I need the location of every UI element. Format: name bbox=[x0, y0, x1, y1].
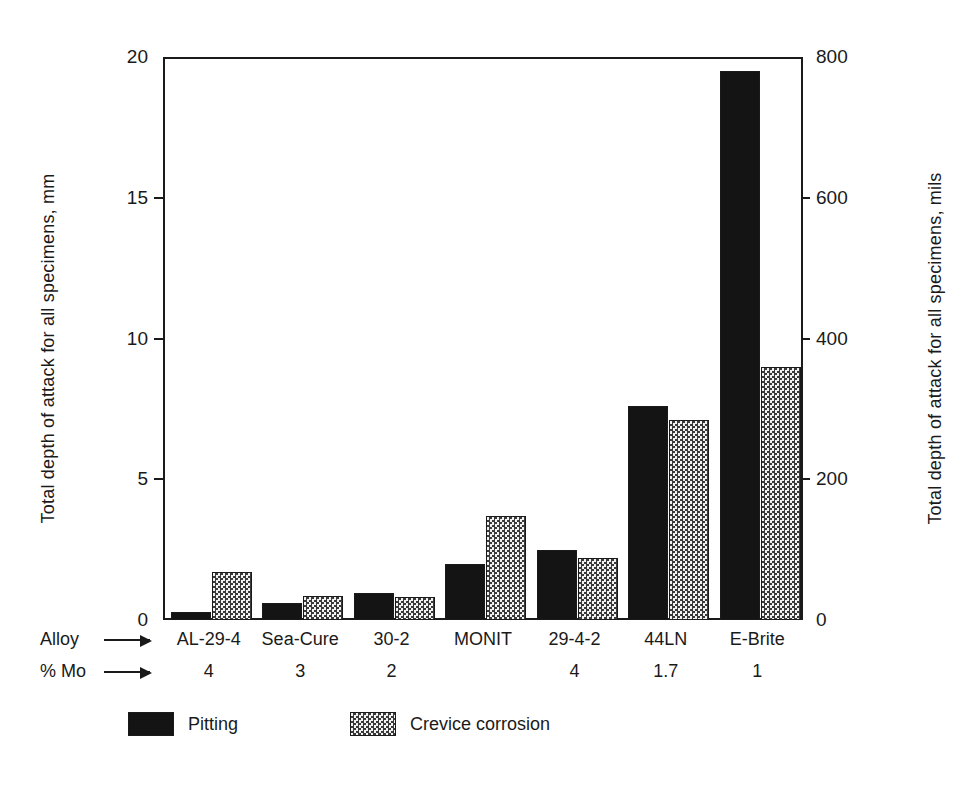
x-axis-mo-label: 4 bbox=[528, 660, 620, 682]
bar-group bbox=[354, 57, 437, 620]
bar-group bbox=[445, 57, 528, 620]
legend-label-pitting: Pitting bbox=[188, 714, 238, 735]
bar-crevice bbox=[395, 597, 435, 620]
bar-pitting bbox=[628, 406, 668, 620]
y-tick-label-right: 600 bbox=[816, 188, 886, 207]
bar-crevice bbox=[303, 596, 343, 620]
x-axis-alloy-label: MONIT bbox=[437, 628, 529, 650]
bar-pitting bbox=[262, 603, 302, 620]
alloy-arrow-icon bbox=[104, 639, 150, 641]
mo-arrow-icon bbox=[104, 671, 150, 673]
x-axis-alloy-label: 29-4-2 bbox=[528, 628, 620, 650]
y-tick-label-right: 0 bbox=[816, 610, 886, 629]
y-tick-label-left: 0 bbox=[88, 610, 148, 629]
y-tick-mark-right bbox=[801, 338, 810, 340]
legend-item-pitting: Pitting bbox=[128, 712, 238, 736]
mo-row-caption: % Mo bbox=[40, 660, 86, 682]
bar-pitting bbox=[445, 564, 485, 620]
x-axis-mo-label: 2 bbox=[346, 660, 438, 682]
y-tick-label-right: 400 bbox=[816, 329, 886, 348]
x-axis-mo-label: 1 bbox=[711, 660, 803, 682]
bar-crevice bbox=[578, 558, 618, 620]
x-axis-alloy-label: E-Brite bbox=[711, 628, 803, 650]
legend-label-crevice: Crevice corrosion bbox=[410, 714, 550, 735]
legend-swatch-crevice bbox=[350, 712, 396, 736]
y-tick-label-left: 10 bbox=[88, 329, 148, 348]
legend-swatch-pitting bbox=[128, 712, 174, 736]
y-tick-label-right: 800 bbox=[816, 47, 886, 66]
bar-pitting bbox=[537, 550, 577, 620]
x-axis-mo-label: 1.7 bbox=[620, 660, 712, 682]
y-axis-label-left: Total depth of attack for all specimens,… bbox=[38, 114, 59, 584]
bar-group bbox=[628, 57, 711, 620]
bar-group bbox=[537, 57, 620, 620]
bar-pitting bbox=[720, 71, 760, 620]
x-axis-alloy-row: AL-29-4Sea-Cure30-2MONIT29-4-244LNE-Brit… bbox=[163, 628, 803, 654]
bar-pitting bbox=[354, 593, 394, 620]
x-axis-alloy-label: 30-2 bbox=[346, 628, 438, 650]
chart-root: Total depth of attack for all specimens,… bbox=[0, 0, 972, 785]
y-tick-label-left: 15 bbox=[88, 188, 148, 207]
bar-crevice bbox=[761, 367, 801, 620]
x-axis-mo-label: 4 bbox=[163, 660, 255, 682]
bars-layer bbox=[163, 57, 803, 620]
y-tick-mark-left bbox=[154, 338, 163, 340]
bar-group bbox=[720, 57, 803, 620]
y-tick-label-left: 20 bbox=[88, 47, 148, 66]
x-axis-mo-row: 43241.71 bbox=[163, 660, 803, 686]
bar-group bbox=[262, 57, 345, 620]
bar-crevice bbox=[669, 420, 709, 620]
y-tick-mark-right bbox=[801, 478, 810, 480]
alloy-row-caption: Alloy bbox=[40, 628, 79, 650]
bar-group bbox=[171, 57, 254, 620]
bar-crevice bbox=[212, 572, 252, 620]
y-tick-label-left: 5 bbox=[88, 469, 148, 488]
y-tick-mark-right bbox=[801, 197, 810, 199]
y-tick-label-right: 200 bbox=[816, 469, 886, 488]
legend-item-crevice: Crevice corrosion bbox=[350, 712, 550, 736]
x-axis-alloy-label: Sea-Cure bbox=[254, 628, 346, 650]
y-tick-mark-left bbox=[154, 197, 163, 199]
x-axis-alloy-label: AL-29-4 bbox=[163, 628, 255, 650]
y-tick-mark-left bbox=[154, 478, 163, 480]
x-axis-mo-label: 3 bbox=[254, 660, 346, 682]
x-axis-alloy-label: 44LN bbox=[620, 628, 712, 650]
y-axis-label-right: Total depth of attack for all specimens,… bbox=[925, 114, 946, 584]
bar-crevice bbox=[486, 516, 526, 620]
bar-pitting bbox=[171, 612, 211, 620]
